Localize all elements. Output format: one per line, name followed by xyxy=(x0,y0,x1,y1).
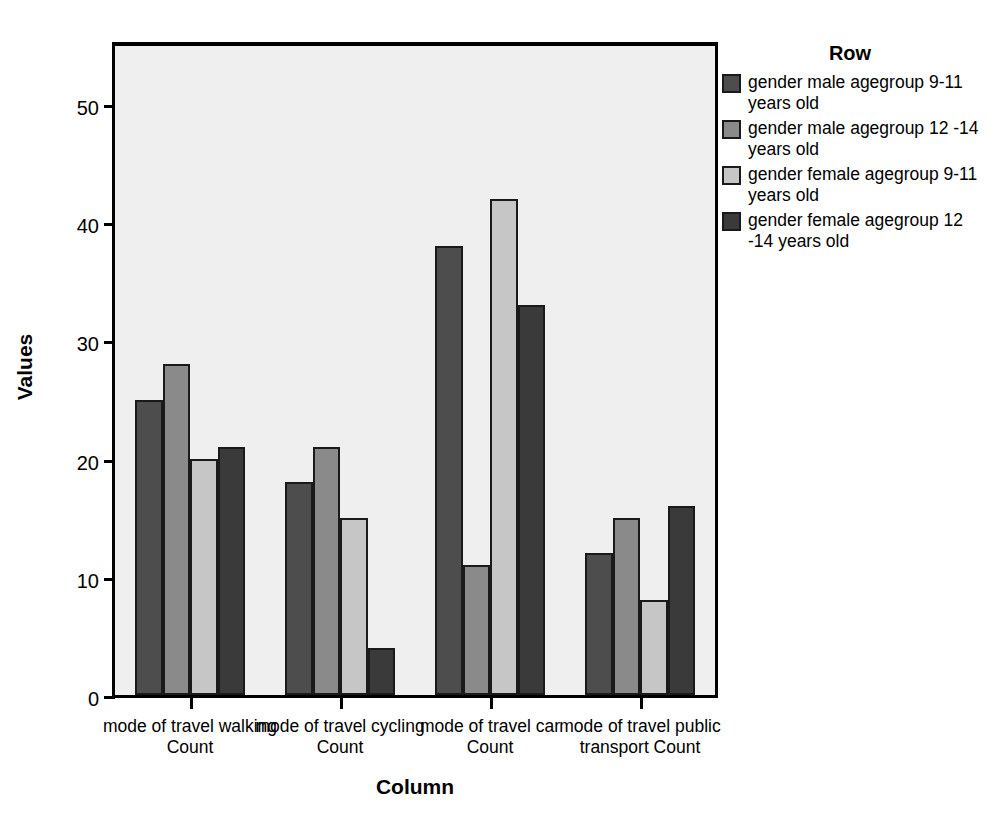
bar xyxy=(435,246,463,695)
y-axis-tick: 50 xyxy=(104,105,115,108)
y-axis-tick: 10 xyxy=(104,578,115,581)
y-axis-tick: 20 xyxy=(104,460,115,463)
y-axis-tick-label: 40 xyxy=(77,215,99,238)
legend-item-label: gender female agegroup 12 -14 years old xyxy=(748,210,984,252)
bar xyxy=(585,553,613,695)
legend-item[interactable]: gender female agegroup 9-11 years old xyxy=(722,164,984,206)
y-axis-tick-label: 10 xyxy=(77,569,99,592)
bar xyxy=(218,447,246,695)
y-axis-tick: 40 xyxy=(104,223,115,226)
x-axis-tick xyxy=(490,695,493,709)
bar xyxy=(285,482,313,695)
legend-swatch-icon xyxy=(722,212,741,231)
y-axis-tick: 0 xyxy=(104,696,115,699)
y-axis-tick-label: 0 xyxy=(88,688,99,711)
legend-swatch-icon xyxy=(722,74,741,93)
y-axis-title: Values xyxy=(13,307,37,427)
y-axis-tick-label: 20 xyxy=(77,451,99,474)
x-axis-tick xyxy=(640,695,643,709)
bar xyxy=(163,364,191,695)
legend: Row gender male agegroup 9-11 years oldg… xyxy=(722,42,984,256)
bar xyxy=(613,518,641,695)
x-axis-tick-label: mode of travel public transport Count xyxy=(550,716,730,758)
legend-item[interactable]: gender male agegroup 9-11 years old xyxy=(722,72,984,114)
plot-inner: 01020304050 xyxy=(115,46,715,695)
legend-swatch-icon xyxy=(722,166,741,185)
legend-title: Row xyxy=(730,42,970,65)
bar xyxy=(668,506,696,695)
bar-chart: Values 01020304050 mode of travel walkin… xyxy=(0,0,987,827)
x-axis-tick xyxy=(190,695,193,709)
bar xyxy=(340,518,368,695)
y-axis-tick-label: 50 xyxy=(77,97,99,120)
legend-item[interactable]: gender female agegroup 12 -14 years old xyxy=(722,210,984,252)
bar xyxy=(313,447,341,695)
y-axis-tick-label: 30 xyxy=(77,333,99,356)
x-axis-tick xyxy=(340,695,343,709)
bar xyxy=(368,648,396,695)
legend-items: gender male agegroup 9-11 years oldgende… xyxy=(722,72,984,252)
bar xyxy=(518,305,546,695)
bar xyxy=(640,600,668,695)
bar xyxy=(135,400,163,695)
bar xyxy=(490,199,518,695)
y-axis-tick: 30 xyxy=(104,341,115,344)
legend-item-label: gender male agegroup 12 -14 years old xyxy=(748,118,984,160)
plot-area: 01020304050 xyxy=(112,42,718,698)
legend-item-label: gender female agegroup 9-11 years old xyxy=(748,164,984,206)
legend-item[interactable]: gender male agegroup 12 -14 years old xyxy=(722,118,984,160)
x-axis-title: Column xyxy=(112,775,718,799)
legend-swatch-icon xyxy=(722,120,741,139)
bar xyxy=(190,459,218,695)
bar xyxy=(463,565,491,695)
legend-item-label: gender male agegroup 9-11 years old xyxy=(748,72,984,114)
